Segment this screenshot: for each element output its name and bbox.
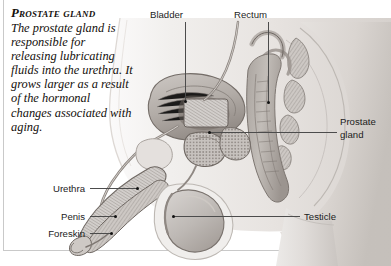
label-rectum: Rectum [234,9,267,20]
caption-heading: Prostate gland [11,6,133,21]
marker-dot-testicle [172,215,175,218]
leader-line-foreskin [90,233,112,234]
prostate-gland-figure: Prostate gland The prostate gland is res… [0,0,391,266]
label-foreskin: Foreskin [14,228,85,239]
marker-dot-prostate-gland [208,131,211,134]
leader-line-rectum [268,22,269,102]
caption-body: The prostate gland is responsible for re… [11,21,133,134]
label-urethra: Urethra [20,183,85,194]
leader-line-prostate-gland [210,132,337,133]
label-prostate-gland-line1: Prostate [340,116,376,127]
leader-line-penis [90,216,116,217]
marker-dot-urethra [136,187,139,190]
label-penis: Penis [20,211,85,222]
label-testicle: Testicle [304,211,336,222]
marker-dot-rectum [267,101,270,104]
leader-line-testicle [174,216,300,217]
label-prostate-gland-line2: gland [340,129,363,140]
label-bladder: Bladder [150,9,183,20]
marker-dot-penis [114,215,117,218]
caption-block: Prostate gland The prostate gland is res… [11,6,133,134]
leader-line-bladder [185,22,186,101]
leader-line-urethra [90,188,138,189]
marker-dot-bladder [184,100,187,103]
marker-dot-foreskin [110,232,113,235]
